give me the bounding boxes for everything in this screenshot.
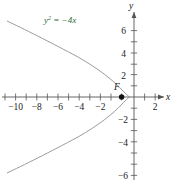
xtick-label-neg6: −6 xyxy=(53,102,63,112)
ytick-label-neg2: −2 xyxy=(118,115,128,125)
xtick-label-neg4: −4 xyxy=(74,102,84,112)
ytick-label-neg6: −6 xyxy=(118,171,128,181)
xtick-label-neg8: −8 xyxy=(32,102,42,112)
focus-point xyxy=(119,94,124,99)
xtick-label-neg10: −10 xyxy=(8,102,23,112)
svg-text:y2 = −4x: y2 = −4x xyxy=(43,15,76,25)
ytick-label-4: 4 xyxy=(121,49,126,59)
parabola-figure: −10 −8 −6 −4 −2 2 6 4 2 −2 −4 −6 x y F y… xyxy=(0,0,177,182)
ytick-label-neg4: −4 xyxy=(118,138,128,148)
xtick-label-neg2: −2 xyxy=(95,102,105,112)
ytick-label-2: 2 xyxy=(121,71,126,81)
x-axis-label: x xyxy=(165,92,171,102)
parabola-plot: −10 −8 −6 −4 −2 2 6 4 2 −2 −4 −6 x y F y… xyxy=(0,0,177,182)
ytick-label-6: 6 xyxy=(121,26,126,36)
equation-annotation: y2 = −4x xyxy=(43,15,76,25)
focus-label: F xyxy=(113,82,120,92)
y-axis xyxy=(132,12,137,180)
xtick-label-2: 2 xyxy=(153,102,158,112)
equation-rest: = −4x xyxy=(51,15,76,25)
y-axis-label: y xyxy=(128,1,134,11)
